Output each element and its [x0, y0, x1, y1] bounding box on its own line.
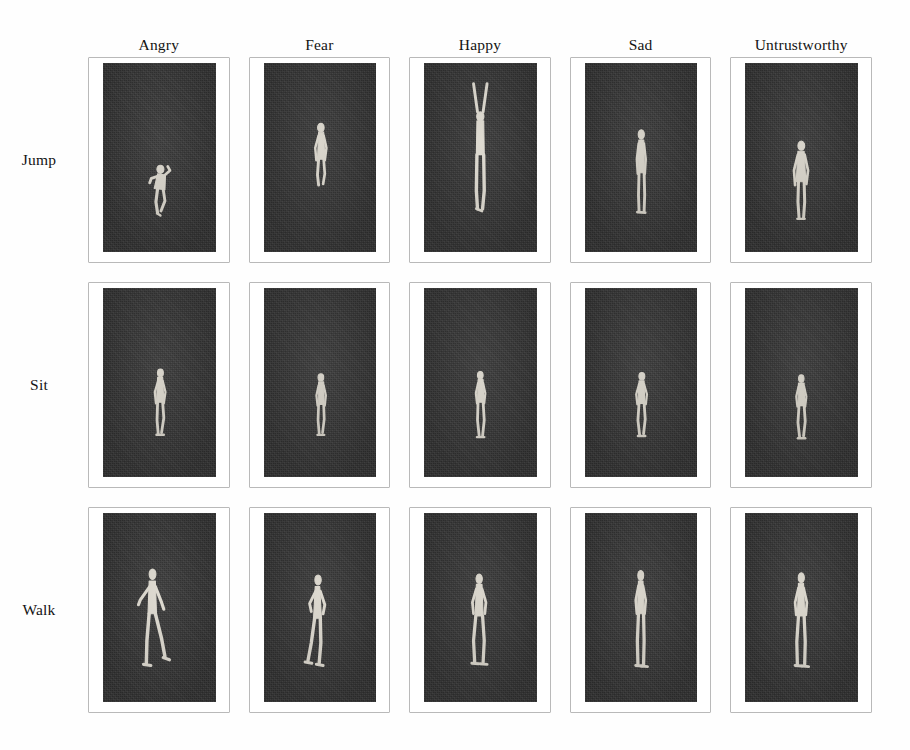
stimulus-cell-walk-happy: [409, 507, 551, 713]
stimulus-panel: [264, 288, 377, 477]
stimulus-panel: [745, 513, 858, 702]
stimulus-panel: [103, 288, 216, 477]
stimulus-panel: [103, 513, 216, 702]
row-label-column: Jump Sit Walk: [0, 57, 84, 713]
body-figure-jump-untrustworthy: [745, 63, 858, 252]
body-figure-jump-happy: [424, 63, 537, 252]
body-figure-sit-untrustworthy: [745, 288, 858, 477]
body-figure-sit-fear: [264, 288, 377, 477]
body-figure-walk-untrustworthy: [745, 513, 858, 702]
stimulus-cell-sit-sad: [570, 282, 712, 488]
stimulus-panel: [745, 63, 858, 252]
stimulus-panel: [585, 288, 698, 477]
body-figure-walk-angry: [103, 513, 216, 702]
stimulus-cell-walk-fear: [249, 507, 391, 713]
stimulus-cell-sit-untrustworthy: [730, 282, 872, 488]
stimulus-cell-sit-happy: [409, 282, 551, 488]
body-figure-jump-angry: [103, 63, 216, 252]
body-figure-sit-angry: [103, 288, 216, 477]
stimulus-cell-jump-angry: [88, 57, 230, 263]
stimulus-cell-walk-sad: [570, 507, 712, 713]
stimulus-cell-sit-fear: [249, 282, 391, 488]
stimulus-panel: [424, 513, 537, 702]
stimulus-cell-jump-untrustworthy: [730, 57, 872, 263]
column-header-happy: Happy: [409, 23, 551, 53]
row-label-walk: Walk: [0, 507, 84, 713]
column-header-fear: Fear: [249, 23, 391, 53]
column-header-sad: Sad: [570, 23, 712, 53]
stimulus-panel: [424, 288, 537, 477]
stimulus-cell-jump-happy: [409, 57, 551, 263]
stimulus-cell-jump-sad: [570, 57, 712, 263]
stimuli-figure: Angry Fear Happy Sad Untrustworthy Jump …: [0, 0, 910, 750]
column-header-row: Angry Fear Happy Sad Untrustworthy: [88, 23, 872, 53]
body-figure-walk-fear: [264, 513, 377, 702]
body-figure-sit-sad: [585, 288, 698, 477]
stimulus-panel: [585, 63, 698, 252]
body-figure-jump-sad: [585, 63, 698, 252]
stimuli-grid: [88, 57, 872, 713]
stimulus-panel: [424, 63, 537, 252]
row-label-jump: Jump: [0, 57, 84, 263]
stimulus-cell-walk-untrustworthy: [730, 507, 872, 713]
row-label-sit: Sit: [0, 282, 84, 488]
stimulus-panel: [745, 288, 858, 477]
stimulus-cell-jump-fear: [249, 57, 391, 263]
column-header-angry: Angry: [88, 23, 230, 53]
stimulus-panel: [264, 63, 377, 252]
stimulus-panel: [103, 63, 216, 252]
body-figure-walk-sad: [585, 513, 698, 702]
body-figure-walk-happy: [424, 513, 537, 702]
stimulus-cell-sit-angry: [88, 282, 230, 488]
body-figure-jump-fear: [264, 63, 377, 252]
stimulus-cell-walk-angry: [88, 507, 230, 713]
stimulus-panel: [264, 513, 377, 702]
column-header-untrustworthy: Untrustworthy: [730, 23, 872, 53]
stimulus-panel: [585, 513, 698, 702]
body-figure-sit-happy: [424, 288, 537, 477]
